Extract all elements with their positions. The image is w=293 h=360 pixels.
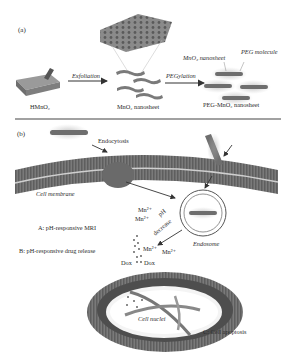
panel-a-label: (a) bbox=[18, 27, 26, 34]
dox-particles-icon bbox=[133, 235, 142, 263]
peg-mno2-nanosheets-icon bbox=[200, 62, 271, 105]
cell-membrane-icon bbox=[15, 155, 278, 194]
mno2-nanosheet-callout: MnO₂ nanosheet bbox=[183, 55, 225, 61]
panel-b-label: (b) bbox=[17, 131, 25, 138]
peg-mno2-nanosheet-label: PEG-MnO₂ nanosheet bbox=[203, 102, 259, 108]
label-b-drug-release: B: pH-responsive drug release bbox=[19, 248, 95, 254]
mn-ion-2: Mn²⁺ bbox=[135, 216, 149, 222]
ph-decrease-arrow bbox=[158, 230, 182, 245]
hmno2-block-icon bbox=[16, 68, 60, 96]
peg-molecule-callout: PEG molecule bbox=[241, 49, 278, 55]
pointer-arrow bbox=[224, 145, 232, 156]
dox-label-1: Dox bbox=[121, 260, 132, 266]
label-a-mri: A: pH-responsive MRI bbox=[38, 225, 96, 231]
endosome-icon bbox=[180, 190, 226, 236]
mn-ion-1: Mn²⁺ bbox=[138, 207, 152, 213]
mn-ion-4: Mn²⁺ bbox=[162, 249, 176, 255]
peg-nanosheet-floating-icon bbox=[48, 124, 88, 140]
cell-membrane-label: Cell membrane bbox=[36, 191, 75, 197]
cell-nuclei-label: Cell nuclei bbox=[138, 316, 165, 322]
mno2-nanosheets-icon bbox=[116, 70, 163, 100]
mno2-lattice-icon bbox=[100, 14, 172, 75]
hmno2-label: HMnO₂ bbox=[30, 104, 50, 110]
endocytosis-arrow bbox=[92, 145, 107, 152]
mno2-nanosheet-label: MnO₂ nanosheet bbox=[117, 104, 159, 110]
mn-ion-3: Mn²⁺ bbox=[143, 246, 157, 252]
cell-nucleus-icon bbox=[87, 272, 243, 352]
endosome-label: Endosome bbox=[193, 241, 219, 247]
dox-label-2: Dox bbox=[144, 260, 155, 266]
endocytosis-label: Endocytosis bbox=[98, 138, 129, 144]
exfoliation-label: Exfoliation bbox=[72, 73, 100, 79]
label-c-apoptosis: C: Cell apoptosis bbox=[203, 329, 246, 335]
pegylation-label: PEGylation bbox=[166, 73, 196, 79]
to-endosome-arrow-1 bbox=[126, 182, 175, 198]
